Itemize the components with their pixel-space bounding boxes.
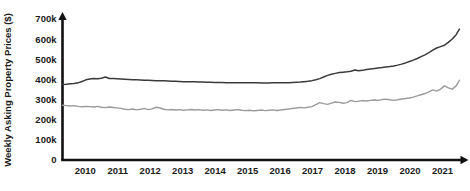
series-line-upper-series (63, 29, 460, 84)
y-tick-label: 500k (35, 54, 57, 65)
x-tick-label: 2017 (302, 165, 323, 176)
x-tick-label: 2010 (75, 165, 96, 176)
y-tick-label: 100k (35, 134, 57, 145)
x-tick-label: 2018 (335, 165, 356, 176)
x-tick-label: 2013 (172, 165, 193, 176)
chart-container: Weekly Asking Property Prices ($) 0100k2… (0, 0, 470, 191)
x-axis-tick-labels: 2010201120122013201420152016201720182019… (75, 165, 454, 176)
x-tick-label: 2014 (205, 165, 227, 176)
axes-group (58, 12, 468, 164)
y-tick-label: 400k (35, 74, 57, 85)
x-axis-arrow-icon (461, 156, 469, 164)
series-line-lower-series (63, 80, 460, 111)
x-tick-label: 2011 (107, 165, 128, 176)
x-tick-label: 2020 (399, 165, 420, 176)
y-axis-tick-labels: 0100k200k300k400k500k600k700k (35, 13, 57, 165)
series-group (63, 29, 460, 111)
y-tick-label: 600k (35, 34, 57, 45)
x-tick-label: 2021 (432, 165, 454, 176)
y-axis-title-group: Weekly Asking Property Prices ($) (2, 13, 13, 167)
y-tick-label: 300k (35, 94, 57, 105)
x-tick-label: 2019 (367, 165, 388, 176)
y-axis-arrow-icon (58, 12, 66, 20)
y-tick-label: 700k (35, 13, 57, 24)
y-tick-label: 0 (51, 154, 56, 165)
y-axis-title: Weekly Asking Property Prices ($) (2, 13, 13, 167)
y-tick-label: 200k (35, 114, 57, 125)
x-tick-label: 2012 (140, 165, 161, 176)
x-tick-label: 2015 (237, 165, 259, 176)
line-chart: Weekly Asking Property Prices ($) 0100k2… (0, 0, 470, 191)
x-tick-label: 2016 (270, 165, 291, 176)
